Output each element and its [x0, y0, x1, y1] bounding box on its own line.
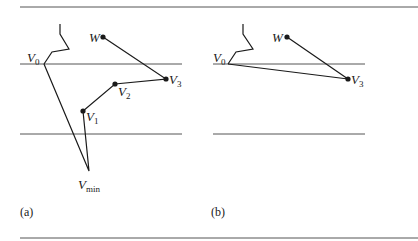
point-w — [100, 34, 105, 39]
panel-b: V0 W V3 (b) — [211, 24, 365, 219]
panel-a: V0 W V3 V2 V1 Vmin (a) — [20, 24, 182, 219]
point-v1 — [80, 108, 85, 113]
search-path — [44, 37, 166, 171]
label-v3: V3 — [169, 72, 182, 89]
label-v0: V0 — [213, 50, 226, 67]
zigzag-path — [228, 24, 253, 64]
caption-a: (a) — [20, 205, 33, 219]
caption-b: (b) — [211, 205, 225, 219]
point-v2 — [112, 81, 117, 86]
label-vmin: Vmin — [78, 177, 100, 194]
label-v2: V2 — [118, 84, 130, 101]
label-w: W — [272, 30, 284, 45]
label-v0: V0 — [27, 50, 40, 67]
label-v3: V3 — [351, 72, 364, 89]
zigzag-path — [44, 24, 69, 64]
label-v1: V1 — [86, 109, 98, 126]
label-w: W — [89, 30, 101, 45]
search-path — [228, 37, 348, 79]
point-v3 — [345, 76, 350, 81]
point-v3 — [163, 76, 168, 81]
point-w — [284, 34, 289, 39]
figure-canvas: V0 W V3 V2 V1 Vmin (a) V0 W V3 (b) — [0, 0, 418, 241]
